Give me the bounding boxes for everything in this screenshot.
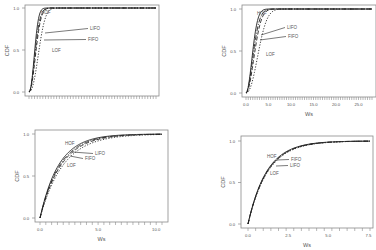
annotation-label-lifo: LIFO [90,26,101,31]
x-tick-label: 20.0 [332,102,341,107]
series-line-hof [29,8,156,92]
x-tick-label: 0.0 [37,227,43,232]
annotation-leader [260,37,286,41]
x-tick-label: 5.0 [266,102,272,107]
y-axis-label: CDF [221,45,227,57]
y-tick-label: 0.5 [230,49,236,54]
annotation-label-lof: LOF [270,171,279,176]
plot-frame [242,5,376,97]
annotation-label-fifo: FIFO [288,34,299,39]
y-tick-label: 1.0 [13,6,19,11]
series-line-lifo [40,134,162,218]
series-line-fifo [246,9,372,93]
y-tick-label: 1.0 [230,7,236,12]
annotation-leader [45,29,88,34]
x-tick-label: 25.0 [354,102,363,107]
y-tick-label: 1.0 [23,132,29,137]
y-axis-label: CDF [4,44,10,56]
x-axis-label: Ws [98,236,106,242]
x-axis-label: Ws [305,111,313,117]
series-line-fifo [40,134,162,218]
figure-canvas: 0.00.51.0CDFHOFLIFOFIFOLOF 0.00.51.0CDF0… [0,0,376,250]
chart-panel-bottom-left: 0.00.51.0CDF0.05.010.0WsHOFLIFOFIFOLOF [14,130,168,242]
series-line-lifo [246,9,372,93]
series-line-lof [246,9,372,93]
annotation-leader [70,156,83,159]
y-tick-label: 0.5 [229,180,235,185]
annotation-label-lof: LOF [266,52,275,57]
annotation-leader [72,152,93,154]
y-tick-label: 0.0 [230,91,236,96]
y-tick-label: 0.0 [229,222,235,227]
annotation-leader [261,28,285,36]
annotation-label-lof: LOF [67,163,76,168]
series-line-fifo [29,8,156,92]
annotation-label-lifo: LIFO [95,151,106,156]
x-tick-label: 0.0 [243,102,249,107]
x-tick-label: 5.0 [325,233,331,238]
annotation-leader [277,160,289,161]
y-axis-label: CDF [14,170,20,182]
annotation-label-lifo: LIFO [287,25,298,30]
annotation-label-hof: HOF [41,10,51,15]
x-tick-label: 7.5 [365,233,371,238]
annotation-label-fifo: FIFO [88,37,99,42]
y-tick-label: 0.5 [13,48,19,53]
series-line-hof [40,134,162,218]
x-axis-label: Ws [303,242,311,248]
x-tick-label: 2.5 [285,233,291,238]
series-line-lifo [29,8,156,92]
annotation-label-hof: HOF [267,154,277,159]
y-tick-label: 0.0 [23,216,29,221]
chart-panel-bottom-right: 0.00.51.0CDF0.02.55.07.5WsHOFFIFOLIFOLOF [220,136,373,248]
chart-panel-top-right: 0.00.51.0CDF0.05.010.015.020.025.0WsHOFL… [221,5,376,117]
y-tick-label: 1.0 [229,139,235,144]
series-line-hof [246,9,372,93]
chart-panel-top-left: 0.00.51.0CDFHOFLIFOFIFOLOF [4,5,159,99]
annotation-label-fifo: FIFO [291,157,302,162]
x-tick-label: 10.0 [287,102,296,107]
annotation-leader [44,40,86,41]
series-line-lof [29,8,156,92]
y-tick-label: 0.0 [13,90,19,95]
x-tick-label: 0.0 [245,233,251,238]
x-tick-label: 10.0 [152,227,161,232]
series-line-lof [40,134,162,218]
y-tick-label: 0.5 [23,174,29,179]
annotation-label-hof: HOF [65,141,75,146]
annotation-label-lof: LOF [52,48,61,53]
x-tick-label: 15.0 [309,102,318,107]
annotation-leader [276,166,288,167]
annotation-label-lifo: LIFO [290,163,301,168]
annotation-label-hof: HOF [257,11,267,16]
y-axis-label: CDF [220,176,226,188]
annotation-label-fifo: FIFO [85,156,96,161]
x-tick-label: 5.0 [95,227,101,232]
